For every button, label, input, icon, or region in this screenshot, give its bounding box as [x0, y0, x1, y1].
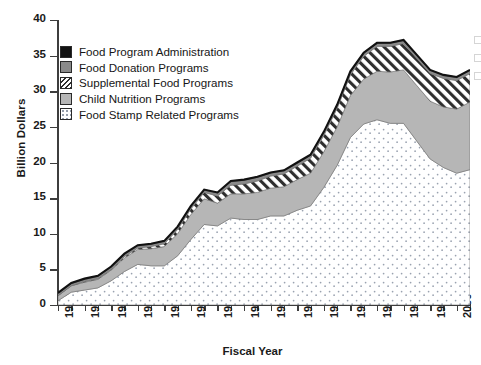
y-axis-tick-label: 30	[18, 83, 46, 95]
legend-item: Food Stamp Related Programs	[60, 106, 239, 122]
y-axis-tick-label: 10	[18, 226, 46, 238]
y-axis-tick-label: 0	[18, 297, 46, 309]
x-axis-tick	[430, 305, 431, 311]
y-axis-tick	[50, 163, 57, 164]
x-axis-tick	[324, 305, 325, 311]
x-axis-tick	[377, 305, 378, 311]
y-axis-tick-label: 5	[18, 261, 46, 273]
legend-swatch-light-gray	[60, 93, 72, 105]
x-axis-tick	[457, 305, 458, 311]
x-axis-tick	[58, 305, 59, 311]
chart-legend: Food Program AdministrationFood Donation…	[60, 44, 239, 122]
x-axis-tick	[191, 305, 192, 311]
y-axis-tick-label: 25	[18, 119, 46, 131]
legend-label: Food Stamp Related Programs	[79, 108, 239, 121]
y-axis-tick	[50, 56, 57, 57]
y-axis-tick-label: 15	[18, 190, 46, 202]
legend-item: Food Donation Programs	[60, 60, 239, 76]
legend-swatch-black	[60, 46, 72, 58]
x-axis-title: Fiscal Year	[0, 345, 481, 357]
y-axis-title: Billion Dollars	[15, 83, 27, 193]
clipped-neighbor-figure-artifact	[472, 14, 481, 110]
y-axis-tick	[50, 127, 57, 128]
legend-label: Food Donation Programs	[79, 61, 209, 74]
y-axis-tick-label: 40	[18, 12, 46, 24]
legend-item: Supplemental Food Programs	[60, 75, 239, 91]
y-axis-tick-label: 35	[18, 48, 46, 60]
legend-label: Supplemental Food Programs	[79, 76, 233, 89]
x-axis-tick	[217, 305, 218, 311]
x-axis-tick	[85, 305, 86, 311]
y-axis-tick	[50, 305, 57, 306]
x-axis-tick	[138, 305, 139, 311]
x-axis-tick	[271, 305, 272, 311]
y-axis-tick	[50, 198, 57, 199]
y-axis-tick	[50, 234, 57, 235]
x-axis-tick	[404, 305, 405, 311]
legend-swatch-dots	[60, 108, 72, 120]
y-axis-tick	[50, 91, 57, 92]
stacked-area-chart-figure: Billion Dollars Fiscal Year 051015202530…	[0, 0, 481, 365]
legend-item: Food Program Administration	[60, 44, 239, 60]
x-axis-tick	[111, 305, 112, 311]
y-axis-tick	[50, 20, 57, 21]
legend-label: Food Program Administration	[79, 45, 229, 58]
x-axis-tick	[350, 305, 351, 311]
y-axis-tick-label: 20	[18, 155, 46, 167]
legend-item: Child Nutrition Programs	[60, 91, 239, 107]
legend-swatch-dark-gray	[60, 61, 72, 73]
x-axis-tick	[164, 305, 165, 311]
x-axis-tick	[297, 305, 298, 311]
x-axis-tick	[244, 305, 245, 311]
y-axis-tick	[50, 269, 57, 270]
legend-label: Child Nutrition Programs	[79, 92, 205, 105]
legend-swatch-hatch	[60, 77, 72, 89]
